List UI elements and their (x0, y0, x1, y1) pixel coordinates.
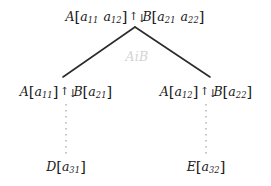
updown-arrow-icon: ↑↓ (60, 87, 72, 98)
node-leaf-left: D[a31] (46, 160, 86, 175)
leaf-left-symbol: D (46, 159, 56, 174)
arrow-down-icon: ↓ (208, 87, 217, 100)
child-left-right-bracket-close: ] (107, 84, 113, 100)
updown-arrow-icon: ↑↓ (129, 12, 141, 23)
arrow-down-icon: ↓ (68, 87, 77, 100)
root-left-symbol: A (65, 9, 74, 24)
derivation-tree-diagram: A[a11a12]↑↓B[a21a22] AiB A[a11]↑↓B[a21] … (0, 0, 271, 186)
child-right-left-subscript: 12 (182, 90, 193, 100)
root-right-subscript-1: 21 (165, 15, 176, 25)
node-child-right: A[a12]↑↓B[a22] (160, 85, 252, 100)
root-right-entry-2: a (181, 9, 188, 24)
child-left-right-subscript: 21 (96, 90, 107, 100)
root-left-subscript-1: 11 (88, 15, 99, 25)
leaf-left-bracket-close: ] (80, 159, 86, 175)
edge-label-aib: AiB (126, 49, 149, 64)
leaf-right-bracket-close: ] (220, 159, 226, 175)
child-right-left-symbol: A (160, 84, 169, 99)
child-left-right-entry: a (88, 84, 95, 99)
node-leaf-right: E[a32] (187, 160, 226, 175)
child-left-left-symbol: A (20, 84, 29, 99)
node-root: A[a11a12]↑↓B[a21a22] (65, 10, 204, 25)
updown-arrow-icon: ↑↓ (200, 87, 212, 98)
child-right-right-subscript: 22 (236, 90, 247, 100)
root-right-subscript-2: 22 (188, 15, 199, 25)
root-left-subscript-2: 12 (111, 15, 122, 25)
node-child-left: A[a11]↑↓B[a21] (20, 85, 112, 100)
child-right-right-entry: a (228, 84, 235, 99)
leaf-right-symbol: E (187, 159, 196, 174)
child-right-left-bracket-close: ] (193, 84, 199, 100)
leaf-left-subscript: 31 (69, 165, 80, 175)
root-left-bracket-close: ] (122, 9, 128, 25)
leaf-right-subscript: 32 (209, 165, 220, 175)
arrow-down-icon: ↓ (137, 12, 146, 25)
edge-root-to-left-child (63, 27, 135, 77)
child-left-left-subscript: 11 (42, 90, 53, 100)
root-right-bracket-close: ] (199, 9, 205, 25)
child-left-left-bracket-close: ] (53, 84, 59, 100)
child-right-right-bracket-close: ] (247, 84, 253, 100)
